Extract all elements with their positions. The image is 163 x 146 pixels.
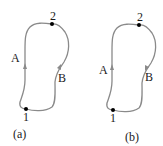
path-a-label: A [11, 51, 20, 65]
point-1-label: 1 [23, 110, 29, 124]
panel-b: 2 1 A B (b) [99, 10, 156, 144]
path-b-label: B [58, 71, 66, 85]
caption-a: (a) [13, 127, 26, 141]
point-2-label: 2 [137, 10, 143, 24]
arrow-up-icon [110, 64, 114, 70]
closed-path-curve [107, 24, 156, 111]
point-2-label: 2 [50, 9, 56, 23]
arrow-up-icon [23, 63, 27, 69]
diagram-canvas: 2 1 A B (a) 2 1 A B (b) [0, 0, 163, 146]
closed-path-curve [20, 23, 69, 110]
point-1-label: 1 [110, 111, 116, 125]
panel-a: 2 1 A B (a) [11, 9, 69, 141]
path-b-label: B [145, 70, 153, 84]
caption-b: (b) [125, 130, 139, 144]
path-a-label: A [99, 63, 108, 77]
